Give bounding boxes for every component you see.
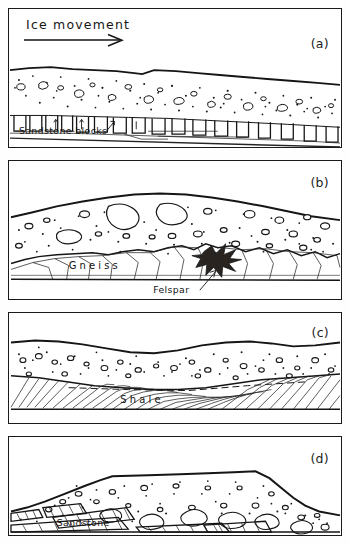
sandstone-label-d: Sandstone [57, 517, 110, 528]
till-clasts-c [20, 354, 334, 380]
panel-b-drawing: Gneiss Felspar [9, 161, 341, 299]
ice-movement-label: Ice movement [26, 17, 130, 32]
right-arrow-icon [22, 33, 132, 49]
sandstone-blocks-label: Sandstone blocks [19, 125, 107, 136]
panel-d-drawing: Sandstone [9, 437, 341, 535]
shale-label: Shale [120, 394, 163, 405]
panel-c-drawing: Shale [9, 313, 341, 423]
shale-hatching-c [11, 375, 340, 409]
panel-letter-b: (b) [310, 175, 329, 190]
panel-d: Sandstone (d) [8, 436, 342, 536]
panel-c: Shale (c) [8, 312, 342, 424]
till-clasts-a [17, 82, 334, 114]
geological-cross-section-figure: Sandstone blocks (a) Ice movement [0, 0, 350, 544]
felspar-label: Felspar [153, 284, 189, 295]
gneiss-label: Gneiss [69, 260, 121, 271]
panel-letter-a: (a) [311, 36, 329, 51]
panel-letter-c: (c) [311, 325, 329, 340]
gneiss-fractures-b [11, 247, 340, 280]
panel-letter-d: (d) [310, 451, 329, 466]
panel-b: Gneiss Felspar (b) [8, 160, 342, 300]
till-stipple-a [14, 75, 336, 118]
